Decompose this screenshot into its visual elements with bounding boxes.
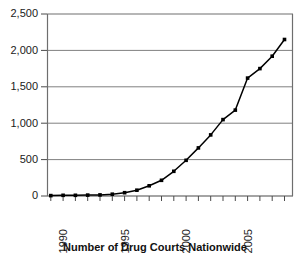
- data-point-1991: [74, 194, 78, 198]
- data-point-1999: [172, 170, 176, 174]
- data-point-2001: [197, 146, 201, 150]
- data-point-1990: [61, 194, 65, 198]
- ytick-label-1000: 1,000: [10, 117, 38, 129]
- data-point-1993: [98, 193, 102, 197]
- chart-background: [0, 0, 302, 257]
- data-point-2007: [270, 54, 274, 58]
- ytick-label-500: 500: [20, 153, 38, 165]
- data-point-2005: [246, 76, 250, 80]
- data-point-1996: [135, 188, 139, 192]
- ytick-label-0: 0: [32, 189, 38, 201]
- ytick-label-2000: 2,000: [10, 44, 38, 56]
- data-point-1995: [123, 191, 127, 195]
- data-point-1992: [86, 193, 90, 197]
- data-point-2000: [184, 159, 188, 163]
- chart-figure: 0 500 1,000 1,500 2,000 2,500: [0, 0, 302, 257]
- data-point-2003: [221, 118, 225, 122]
- data-point-2008: [283, 38, 287, 42]
- data-point-1994: [111, 192, 115, 196]
- line-chart-svg: 0 500 1,000 1,500 2,000 2,500: [0, 0, 302, 257]
- data-point-1989: [49, 194, 53, 198]
- data-point-1997: [147, 184, 151, 188]
- data-point-2006: [258, 67, 262, 71]
- data-point-2002: [209, 133, 213, 137]
- ytick-label-2500: 2,500: [10, 7, 38, 19]
- chart-axis-title: Number of Drug Courts Nationwide: [63, 241, 247, 253]
- ytick-label-1500: 1,500: [10, 80, 38, 92]
- data-point-2004: [234, 108, 238, 112]
- data-point-1998: [160, 179, 164, 183]
